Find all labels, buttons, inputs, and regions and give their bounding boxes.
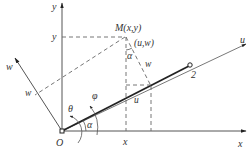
w-proj-label: w — [25, 88, 32, 98]
y-proj-label: y — [51, 31, 57, 42]
element-bar — [62, 66, 189, 131]
point-M-label: M(x,y) — [114, 22, 142, 34]
w-segment-label: w — [145, 59, 152, 69]
phi-label: φ — [92, 90, 98, 101]
node-2-label: 2 — [191, 69, 196, 80]
alpha-M-label: α — [127, 50, 133, 61]
theta-arc — [70, 116, 82, 143]
x-axis-label: x — [237, 138, 243, 149]
u-axis-label: u — [240, 34, 245, 45]
y-axis-label: y — [51, 1, 57, 12]
x-proj-label: x — [122, 136, 128, 147]
local-coords-label: (u,w) — [134, 38, 154, 49]
u-segment-label: u — [134, 95, 139, 105]
theta-label: θ — [68, 103, 73, 114]
node-2 — [188, 63, 192, 67]
w-axis — [15, 58, 62, 131]
coordinate-transformation-diagram: y x u w O M(x,y) (u,w) 2 y x w w u θ φ α… — [0, 0, 250, 153]
dash-M-to-w-axis — [35, 37, 125, 95]
u-axis — [62, 44, 246, 131]
origin-node — [60, 129, 64, 133]
origin-label: O — [56, 137, 63, 148]
alpha-arc-origin — [83, 120, 86, 131]
w-axis-label: w — [6, 61, 13, 72]
alpha-origin-label: α — [87, 119, 93, 130]
